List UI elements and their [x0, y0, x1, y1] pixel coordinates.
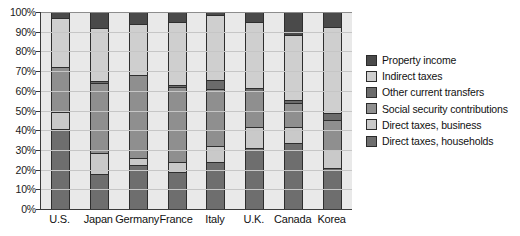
- gridline: [41, 12, 352, 13]
- x-tick-label: U.S.: [49, 213, 70, 225]
- legend-label: Indirect taxes: [382, 70, 442, 82]
- y-tick-mark: [36, 32, 41, 33]
- legend-item[interactable]: Social security contributions: [366, 101, 518, 117]
- y-tick-label: 80%: [16, 45, 36, 57]
- bar-segment: [324, 120, 341, 150]
- gridline: [41, 150, 352, 151]
- x-tick-label: Korea: [317, 213, 345, 225]
- legend-label: Direct taxes, business: [382, 119, 481, 131]
- legend-swatch-icon: [366, 119, 377, 130]
- gridline: [41, 71, 352, 72]
- bar-segment: [169, 12, 186, 22]
- bar-segment: [91, 83, 108, 153]
- y-tick-label: 50%: [16, 105, 36, 117]
- legend-item[interactable]: Direct taxes, business: [366, 117, 518, 133]
- legend-item[interactable]: Direct taxes, households: [366, 133, 518, 149]
- legend-swatch-icon: [366, 55, 377, 66]
- gridline: [41, 91, 352, 92]
- bar-segment: [246, 148, 263, 209]
- plot-area: [40, 12, 352, 210]
- bar-segment: [91, 28, 108, 81]
- y-tick-mark: [36, 170, 41, 171]
- y-axis: 100%90%80%70%60%50%40%30%20%10%0%: [0, 0, 38, 212]
- bar-segment: [130, 165, 147, 209]
- bar-segment: [246, 12, 263, 22]
- legend-swatch-icon: [366, 71, 377, 82]
- gridline: [41, 130, 352, 131]
- legend: Property incomeIndirect taxesOther curre…: [366, 52, 518, 149]
- y-tick-label: 10%: [16, 183, 36, 195]
- x-tick-label: Italy: [205, 213, 224, 225]
- legend-label: Other current transfers: [382, 86, 484, 98]
- y-tick-label: 30%: [16, 144, 36, 156]
- legend-item[interactable]: Other current transfers: [366, 84, 518, 100]
- plot-wrapper: 100%90%80%70%60%50%40%30%20%10%0% U.S.Ja…: [0, 0, 360, 236]
- y-tick-mark: [36, 91, 41, 92]
- y-tick-mark: [36, 150, 41, 151]
- y-tick-mark: [36, 71, 41, 72]
- bar-segment: [324, 12, 341, 27]
- y-tick-label: 0%: [21, 203, 36, 215]
- gridline: [41, 51, 352, 52]
- legend-item[interactable]: Property income: [366, 52, 518, 68]
- y-tick-label: 40%: [16, 124, 36, 136]
- y-tick-label: 70%: [16, 65, 36, 77]
- legend-swatch-icon: [366, 136, 377, 147]
- y-tick-mark: [36, 111, 41, 112]
- clipped-caption: [44, 228, 344, 236]
- bar-segment: [285, 103, 302, 128]
- y-tick-label: 60%: [16, 85, 36, 97]
- bar-segment: [207, 80, 224, 89]
- y-tick-mark: [36, 189, 41, 190]
- bar-segment: [52, 112, 69, 130]
- legend-item[interactable]: Indirect taxes: [366, 68, 518, 84]
- bar-segment: [91, 174, 108, 209]
- gridline: [41, 189, 352, 190]
- stacked-bar-chart: 100%90%80%70%60%50%40%30%20%10%0% U.S.Ja…: [0, 0, 520, 236]
- legend-label: Property income: [382, 54, 456, 66]
- x-tick-label: Germany: [115, 213, 159, 225]
- bar-segment: [52, 67, 69, 111]
- gridline: [41, 170, 352, 171]
- y-tick-mark: [36, 130, 41, 131]
- bar-segment: [285, 100, 302, 103]
- bar-segment: [324, 113, 341, 120]
- bar-segment: [246, 91, 263, 127]
- bar-segment: [324, 150, 341, 168]
- x-tick-label: U.K.: [244, 213, 265, 225]
- bar-segment: [130, 12, 147, 24]
- bar-segment: [130, 75, 147, 158]
- y-tick-label: 90%: [16, 26, 36, 38]
- legend-swatch-icon: [366, 87, 377, 98]
- legend-label: Direct taxes, households: [382, 135, 493, 147]
- bar-segment: [91, 81, 108, 83]
- x-tick-label: Canada: [274, 213, 311, 225]
- y-tick-mark: [36, 12, 41, 13]
- y-tick-label: 100%: [10, 6, 36, 18]
- bar-segment: [207, 146, 224, 162]
- legend-label: Social security contributions: [382, 103, 508, 115]
- x-tick-label: France: [160, 213, 193, 225]
- legend-swatch-icon: [366, 103, 377, 114]
- bar-segment: [130, 158, 147, 165]
- gridline: [41, 32, 352, 33]
- gridline: [41, 111, 352, 112]
- y-tick-mark: [36, 209, 41, 210]
- bar-segment: [91, 12, 108, 28]
- bar-segment: [207, 89, 224, 146]
- bar-segment: [285, 143, 302, 209]
- bar-segment: [52, 18, 69, 67]
- x-tick-label: Japan: [84, 213, 113, 225]
- y-tick-label: 20%: [16, 164, 36, 176]
- bar-segment: [169, 85, 186, 87]
- y-tick-mark: [36, 51, 41, 52]
